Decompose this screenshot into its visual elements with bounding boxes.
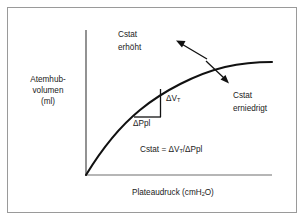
compliance-formula: Cstat = ΔVT/ΔPpl <box>140 145 202 155</box>
increase-arrow <box>176 41 207 60</box>
delta-volume-label-subscript: T <box>177 97 180 103</box>
compliance-formula-lhs: Cstat = ΔV <box>140 145 179 154</box>
y-axis-label-line-3: (ml) <box>14 96 82 107</box>
annotation-cstat-increased-line-1: Cstat <box>118 29 141 42</box>
y-axis-label-line-2: volumen <box>14 85 82 96</box>
compliance-curve <box>86 62 272 175</box>
y-axis-label-line-1: Atemhub- <box>14 74 82 85</box>
delta-volume-label: ΔVT <box>166 94 180 104</box>
compliance-formula-rhs: /ΔPpl <box>183 145 203 154</box>
delta-volume-label-text: ΔV <box>166 94 177 103</box>
increase-arrow-head <box>176 41 186 48</box>
x-axis-label-prefix: Plateaudruck (cmH <box>132 188 202 197</box>
compliance-curve-group <box>86 62 272 175</box>
annotation-cstat-decreased-line-1: Cstat <box>233 90 267 103</box>
delta-pressure-label: ΔPpl <box>133 119 150 129</box>
figure-root: Atemhub- volumen (ml) Plateaudruck (cmH2… <box>0 0 306 221</box>
x-axis-label-suffix: O) <box>205 188 214 197</box>
y-axis-label: Atemhub- volumen (ml) <box>14 74 82 107</box>
annotation-cstat-increased: Cstat erhöht <box>118 29 141 54</box>
annotation-cstat-decreased: Cstat erniedrigt <box>233 90 267 115</box>
annotation-cstat-increased-line-2: erhöht <box>118 42 141 55</box>
annotation-cstat-decreased-line-2: erniedrigt <box>233 103 267 116</box>
x-axis-label: Plateaudruck (cmH2O) <box>132 188 214 197</box>
